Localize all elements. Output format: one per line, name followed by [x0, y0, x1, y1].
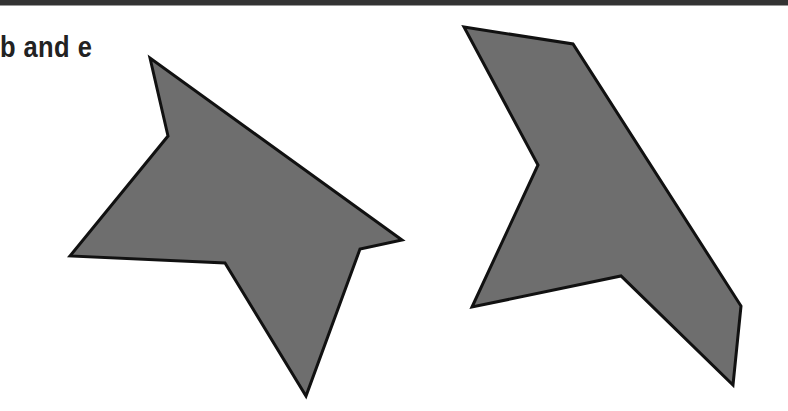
shapes-canvas: [0, 0, 788, 411]
polygon-shape-e: [464, 27, 741, 385]
polygon-shape-b: [70, 58, 402, 396]
